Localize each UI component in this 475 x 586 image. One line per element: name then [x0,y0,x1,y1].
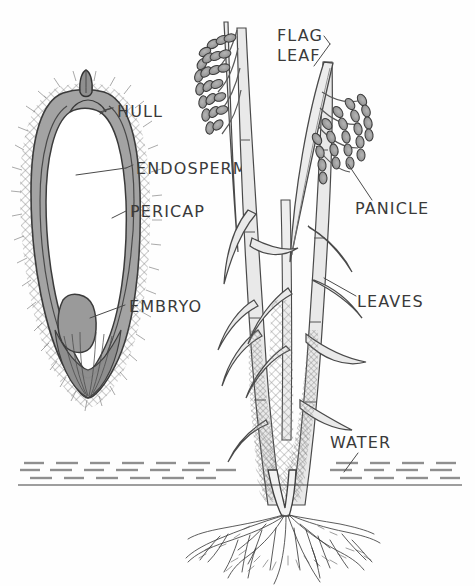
leader-flag-leaf-a [324,36,330,44]
illustration-canvas: HULL ENDOSPERM PERICAP EMBRYO [0,0,475,586]
panicle-left [193,30,241,135]
label-leaves: LEAVES [357,292,424,311]
leader-panicle [348,164,372,200]
grain-cross-section [11,70,162,411]
label-hull: HULL [117,102,163,121]
label-panicle: PANICLE [355,199,429,218]
label-embryo: EMBRYO [129,297,202,316]
label-pericap: PERICAP [130,202,205,221]
label-flag-leaf-line1: FLAG [277,26,323,45]
label-flag-leaf-line2: LEAF [277,46,321,65]
label-water: WATER [330,433,391,452]
rice-anatomy-figure: HULL ENDOSPERM PERICAP EMBRYO [0,0,475,586]
root-system [186,515,380,584]
label-endosperm: ENDOSPERM [136,159,248,178]
embryo-shape [58,294,96,352]
water-surface [18,463,462,485]
